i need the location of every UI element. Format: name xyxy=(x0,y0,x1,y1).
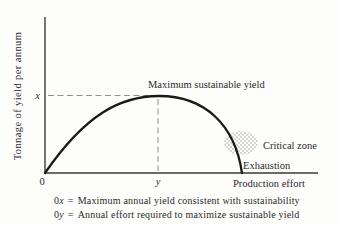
caption-line-1: 0x=Maximum annual yield consistent with … xyxy=(54,195,300,206)
y-axis-tick-label: x xyxy=(34,90,40,101)
x-axis-label: Production effort xyxy=(233,178,305,189)
msy-figure: Tonnage of yield per annum x 0 y Product… xyxy=(0,0,339,225)
peak-annotation: Maximum sustainable yield xyxy=(148,79,265,90)
msy-chart-canvas: Tonnage of yield per annum x 0 y Product… xyxy=(0,0,339,225)
x-axis-tick-label: y xyxy=(155,176,161,187)
exhaustion-label: Exhaustion xyxy=(243,160,291,171)
critical-zone-label: Critical zone xyxy=(263,140,317,151)
caption-line-2: 0y=Annual effort required to maximize su… xyxy=(54,209,300,220)
yield-curve xyxy=(45,96,242,173)
y-axis-label: Tonnage of yield per annum xyxy=(12,32,23,161)
origin-label: 0 xyxy=(39,176,44,187)
